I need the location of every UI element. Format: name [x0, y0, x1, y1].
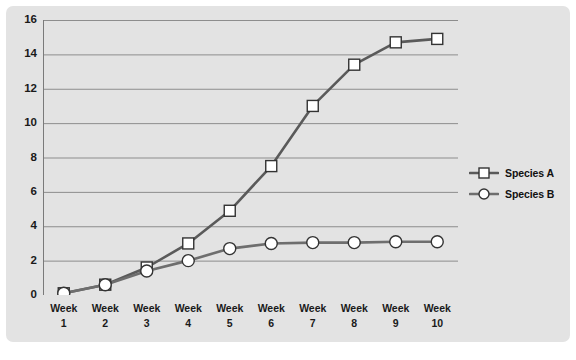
data-point	[390, 236, 402, 248]
x-tick-label-line1: Week	[216, 301, 243, 316]
data-point	[307, 100, 318, 111]
x-tick-label-line2: 2	[92, 316, 119, 331]
data-point	[224, 243, 236, 255]
x-tick-label-line2: 6	[258, 316, 285, 331]
x-tick-label-line2: 8	[341, 316, 368, 331]
x-tick-label: Week8	[341, 301, 368, 331]
x-tick-label-line1: Week	[133, 301, 160, 316]
x-tick-label-line1: Week	[299, 301, 326, 316]
x-tick-label-line1: Week	[175, 301, 202, 316]
legend-marker-square-icon	[469, 166, 499, 180]
x-tick-label-line1: Week	[424, 301, 451, 316]
y-tick-label: 10	[24, 117, 37, 129]
x-tick-label: Week2	[92, 301, 119, 331]
x-tick-label: Week6	[258, 301, 285, 331]
plot-area: 0246810121416 Week1Week2Week3Week4Week5W…	[43, 20, 458, 295]
series-line-a	[64, 39, 438, 293]
x-tick-label-line2: 1	[50, 316, 77, 331]
y-tick-label: 12	[24, 83, 37, 95]
chart-legend: Species ASpecies B	[469, 162, 569, 204]
x-tick-label-line2: 4	[175, 316, 202, 331]
y-tick-label: 0	[31, 289, 37, 301]
x-tick-label-line2: 7	[299, 316, 326, 331]
data-point	[141, 265, 153, 277]
x-tick-label-line2: 10	[424, 316, 451, 331]
x-tick-label-line1: Week	[382, 301, 409, 316]
legend-item-species-b[interactable]: Species B	[469, 183, 569, 204]
data-point	[390, 37, 401, 48]
y-tick-label: 16	[24, 14, 37, 26]
x-tick-label-line2: 5	[216, 316, 243, 331]
y-tick-label: 4	[31, 221, 37, 233]
data-point	[432, 33, 443, 44]
data-point	[266, 161, 277, 172]
y-tick-label: 6	[31, 186, 37, 198]
data-point	[307, 237, 319, 249]
x-tick-label: Week5	[216, 301, 243, 331]
data-point	[431, 236, 443, 248]
x-tick-label: Week10	[424, 301, 451, 331]
x-tick-label: Week3	[133, 301, 160, 331]
series-line-b	[64, 242, 438, 294]
legend-label: Species A	[505, 167, 554, 179]
data-point	[99, 279, 111, 291]
y-tick-label: 14	[24, 49, 37, 61]
data-point	[348, 237, 360, 249]
legend-item-species-a[interactable]: Species A	[469, 162, 569, 183]
data-point	[182, 255, 194, 267]
x-tick-label: Week9	[382, 301, 409, 331]
x-tick-label-line1: Week	[92, 301, 119, 316]
data-point	[183, 238, 194, 249]
x-tick-label-line2: 3	[133, 316, 160, 331]
series-markers-a	[58, 33, 443, 295]
x-tick-label-line2: 9	[382, 316, 409, 331]
data-point	[224, 205, 235, 216]
data-point	[58, 287, 70, 295]
data-point	[265, 237, 277, 249]
x-tick-label-line1: Week	[341, 301, 368, 316]
x-tick-label-line1: Week	[258, 301, 285, 316]
x-tick-label: Week1	[50, 301, 77, 331]
legend-label: Species B	[505, 188, 554, 200]
legend-marker-circle-icon	[469, 187, 499, 201]
x-tick-label: Week4	[175, 301, 202, 331]
chart-container: 0246810121416 Week1Week2Week3Week4Week5W…	[0, 0, 576, 360]
y-tick-label: 8	[31, 152, 37, 164]
data-point	[349, 59, 360, 70]
chart-plot-svg	[43, 20, 458, 295]
series-markers-b	[58, 236, 444, 295]
x-tick-label: Week7	[299, 301, 326, 331]
x-tick-label-line1: Week	[50, 301, 77, 316]
y-tick-label: 2	[31, 255, 37, 267]
